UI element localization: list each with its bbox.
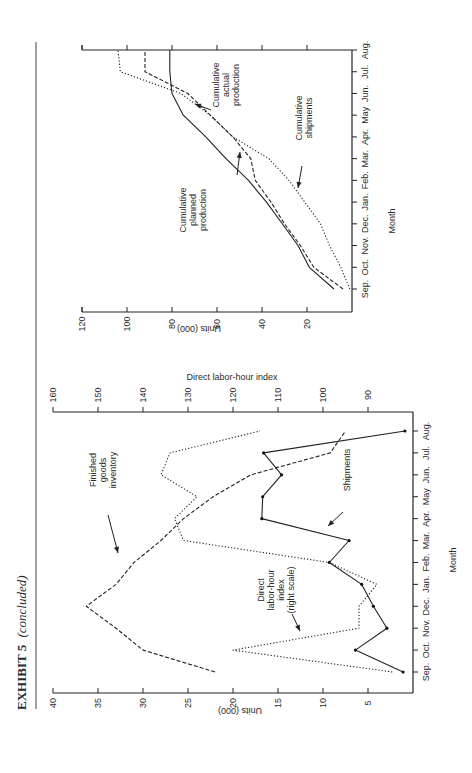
top-month-label: Dec. [360,215,370,234]
bottom-series-marker-0 [262,451,265,454]
bottom-series-marker-0 [261,495,264,498]
bottom-series-marker-0 [354,648,357,651]
bottom-annotation-labor-index: index [276,579,286,601]
bottom-month-label: Jun. [421,466,431,483]
bottom-ytick-label: 35 [93,698,103,708]
top-ytick-label: 120 [77,316,87,331]
top-annotation-arrow-shipments-head [297,182,302,188]
bottom-series-marker-0 [280,473,283,476]
bottom-ytick-label: 5 [363,700,373,705]
bottom-series-marker-0 [372,605,375,608]
bottom-series-line-0 [262,431,405,672]
bottom-month-label: Oct. [421,642,431,659]
bottom-y2tick-label: 130 [183,387,193,402]
top-month-label: Aug. [360,41,370,60]
bottom-month-label: Nov. [421,619,431,637]
bottom-annotation-inventory: Finished [88,453,98,487]
bottom-annotation-inventory: inventory [108,451,118,488]
bottom-y2tick-label: 160 [48,387,58,402]
top-ytick-label: 40 [257,319,267,329]
top-series-line-1 [145,50,343,289]
top-annotation-planned: planned [188,194,198,226]
bottom-month-label: Mar. [421,532,431,550]
top-annotation-shipments: shipments [304,97,314,139]
bottom-month-label: Sep. [421,663,431,682]
exhibit-page: EXHIBIT 5 (concluded) 20406080100120Unit… [0,0,472,773]
top-annotation-actual: actual [221,73,231,97]
bottom-y2tick-label: 110 [273,388,283,402]
bottom-month-label: Jan. [421,576,431,593]
top-month-label: Nov. [360,237,370,255]
bottom-ytick-label: 25 [183,698,193,708]
bottom-y2tick-label: 140 [138,387,148,402]
bottom-ytick-label: 30 [138,698,148,708]
bottom-y2tick-label: 150 [93,387,103,402]
top-month-label: Sep. [360,280,370,299]
top-month-label: Oct. [360,259,370,276]
bottom-y2tick-label: 100 [318,387,328,402]
bottom-month-label: May [421,488,431,506]
top-ytick-label: 20 [302,319,312,329]
top-month-label: Jun. [360,85,370,102]
top-month-label: Jul. [360,65,370,79]
bottom-series-marker-0 [348,539,351,542]
top-annotation-planned: production [198,189,208,231]
exhibit-title-main: EXHIBIT 5 [14,644,29,710]
bottom-ytick-label: 10 [318,698,328,708]
bottom-series-marker-0 [402,670,405,673]
exhibit-title-suffix: (concluded) [14,576,29,638]
bottom-y-axis-label: Units (000) [218,706,262,716]
top-month-label: Mar. [360,150,370,168]
top-annotation-arrow-planned-head [237,152,242,158]
top-y-axis-label: Units (000) [177,324,221,334]
bottom-series-marker-0 [403,429,406,432]
top-series-line-0 [170,50,334,289]
top-annotation-shipments: Cumulative [294,95,304,140]
bottom-month-label: Aug. [421,422,431,441]
top-month-label: Jan. [360,194,370,211]
exhibit-svg: EXHIBIT 5 (concluded) 20406080100120Unit… [0,0,472,773]
bottom-annotation-labor-index: (right scale) [286,566,296,613]
bottom-series-line-1 [86,431,345,672]
top-ytick-label: 100 [122,316,132,331]
shipments-inventory-chart: 510152025303540Units (000)90100110120130… [48,372,458,716]
top-x-axis-label: Month [387,208,397,233]
bottom-y2tick-label: 120 [228,387,238,402]
bottom-y2-axis-label: Direct labor-hour index [186,372,278,382]
bottom-series-marker-0 [260,517,263,520]
bottom-x-axis-label: Month [448,547,458,572]
bottom-ytick-label: 15 [273,698,283,708]
top-ytick-label: 80 [167,319,177,329]
exhibit-title: EXHIBIT 5 (concluded) [14,576,29,711]
bottom-month-label: Jul. [421,446,431,460]
bottom-annotation-inventory: goods [98,457,108,482]
bottom-ytick-label: 40 [48,698,58,708]
bottom-annotation-labor-index: Direct [256,578,266,602]
top-month-label: May [360,106,370,124]
top-annotation-actual: production [231,64,241,106]
bottom-annotation-shipments: Shipments [342,448,352,491]
bottom-y2tick-label: 90 [363,390,373,400]
bottom-month-label: Feb. [421,553,431,571]
top-annotation-planned: Cumulative [178,187,188,232]
top-month-label: Apr. [360,129,370,145]
bottom-series-marker-0 [360,583,363,586]
cumulative-chart: 20406080100120Units (000)Sep.Oct.Nov.Dec… [77,41,397,334]
bottom-annotation-labor-index: labor-hour [266,569,276,610]
bottom-series-marker-0 [385,627,388,630]
top-month-label: Feb. [360,171,370,189]
top-annotation-actual: Cumulative [211,62,221,107]
bottom-month-label: Apr. [421,511,431,527]
bottom-month-label: Dec. [421,597,431,616]
